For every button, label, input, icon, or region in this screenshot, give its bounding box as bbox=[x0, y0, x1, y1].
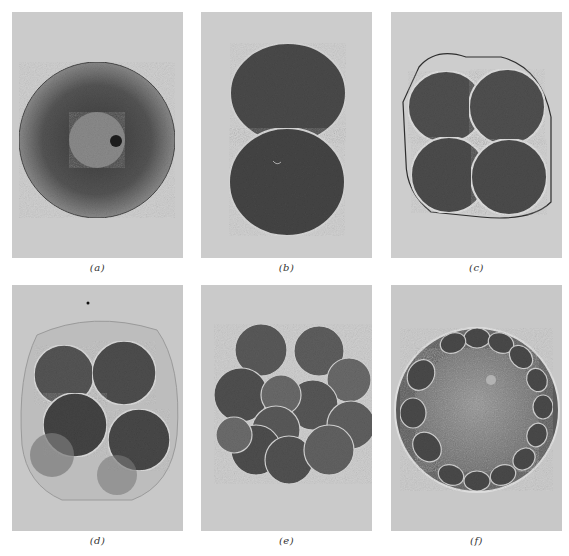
blastula-image bbox=[391, 285, 562, 531]
four-cell-image bbox=[391, 12, 562, 258]
eight-cell-image bbox=[12, 285, 183, 531]
panel-d-micrograph bbox=[12, 285, 183, 531]
panel-e-micrograph bbox=[201, 285, 372, 531]
panel-a-micrograph bbox=[12, 12, 183, 258]
panel-b-micrograph bbox=[201, 12, 372, 258]
embryo-cleavage-figure: (a) (b) (c) bbox=[0, 0, 569, 556]
two-cell-image bbox=[201, 12, 372, 258]
panel-a-label: (a) bbox=[12, 262, 183, 273]
panel-f-label: (f) bbox=[391, 535, 562, 546]
panel-e-label: (e) bbox=[201, 535, 372, 546]
panel-c-micrograph bbox=[391, 12, 562, 258]
egg-cell-image bbox=[12, 12, 183, 258]
panel-c-label: (c) bbox=[391, 262, 562, 273]
panel-b-label: (b) bbox=[201, 262, 372, 273]
panel-d-label: (d) bbox=[12, 535, 183, 546]
sixteen-cell-image bbox=[201, 285, 372, 531]
panel-f-micrograph bbox=[391, 285, 562, 531]
